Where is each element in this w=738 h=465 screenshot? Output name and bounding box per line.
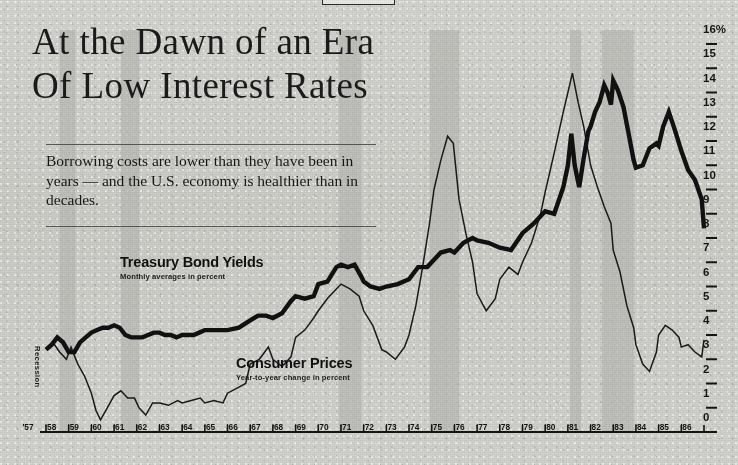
x-axis-tick-label: '59 xyxy=(68,422,79,432)
x-axis-tick-label: '75 xyxy=(431,422,442,432)
headline-line-1: At the Dawn of an Era xyxy=(32,21,374,62)
x-axis-tick-label: '84 xyxy=(635,422,646,432)
x-axis-tick-label: '61 xyxy=(113,422,124,432)
x-axis-tick-label: '80 xyxy=(544,422,555,432)
x-axis-tick-label: '73 xyxy=(385,422,396,432)
x-axis-tick-label: '63 xyxy=(159,422,170,432)
newspaper-chart-page: 012345678910111213141516% '57'58'59'60'6… xyxy=(0,0,738,465)
x-axis-tick-label: '78 xyxy=(499,422,510,432)
x-axis-tick-label: '69 xyxy=(295,422,306,432)
x-axis-tick-label: '72 xyxy=(363,422,374,432)
x-axis-tick-label: '79 xyxy=(522,422,533,432)
x-axis-tick-label: '83 xyxy=(612,422,623,432)
x-axis-tick-label: '57 xyxy=(22,422,33,432)
headline-line-2: Of Low Interest Rates xyxy=(32,64,462,108)
x-axis-tick-label: '76 xyxy=(453,422,464,432)
divider-top xyxy=(46,144,376,145)
x-axis-tick-label: '65 xyxy=(204,422,215,432)
x-axis-tick-label: '71 xyxy=(340,422,351,432)
series-label-note: Monthly averages in percent xyxy=(120,272,263,281)
x-axis-tick-label: '74 xyxy=(408,422,419,432)
x-axis-tick-label: '70 xyxy=(317,422,328,432)
x-axis-tick-label: '67 xyxy=(249,422,260,432)
series-label-note: Year-to-year change in percent xyxy=(236,373,352,382)
x-axis-tick-label: '86 xyxy=(680,422,691,432)
x-axis-tick-label: '64 xyxy=(181,422,192,432)
recession-label: Recession xyxy=(33,346,42,388)
x-axis-tick-label: '82 xyxy=(590,422,601,432)
deck-text: Borrowing costs are lower than they have… xyxy=(46,151,386,210)
x-axis-tick-label: '81 xyxy=(567,422,578,432)
page-title: At the Dawn of an Era Of Low Interest Ra… xyxy=(32,20,462,108)
x-axis-tick-label: '77 xyxy=(476,422,487,432)
series-label-title: Consumer Prices xyxy=(236,355,352,371)
x-axis-tick-label: '60 xyxy=(90,422,101,432)
x-axis-tick-label: '85 xyxy=(658,422,669,432)
x-axis-tick-label: '58 xyxy=(45,422,56,432)
x-axis-tick-label: '66 xyxy=(227,422,238,432)
x-axis-tick-label: '62 xyxy=(136,422,147,432)
series-label-title: Treasury Bond Yields xyxy=(120,254,263,270)
series-label-treasury-bond-yields: Treasury Bond Yields Monthly averages in… xyxy=(120,253,263,281)
series-label-consumer-prices: Consumer Prices Year-to-year change in p… xyxy=(236,354,352,382)
divider-bottom xyxy=(46,226,376,227)
x-axis-tick-label: '68 xyxy=(272,422,283,432)
